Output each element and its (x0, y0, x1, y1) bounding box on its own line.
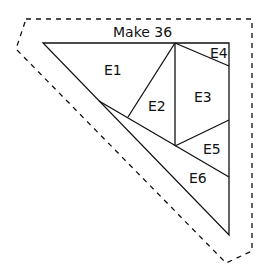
foundation-pattern-diagram: Make 36 E1 E2 E3 E4 E5 E6 (0, 0, 260, 272)
piece-label-e4: E4 (210, 45, 228, 61)
pattern-title: Make 36 (113, 24, 172, 40)
piece-label-e1: E1 (104, 62, 122, 78)
e5-seam (175, 120, 229, 146)
piece-label-e3: E3 (194, 89, 212, 105)
piece-label-e2: E2 (148, 98, 166, 114)
pattern-lines (43, 43, 229, 235)
piece-label-e5: E5 (203, 141, 221, 157)
piece-label-e6: E6 (189, 170, 207, 186)
outer-triangle (43, 43, 229, 235)
